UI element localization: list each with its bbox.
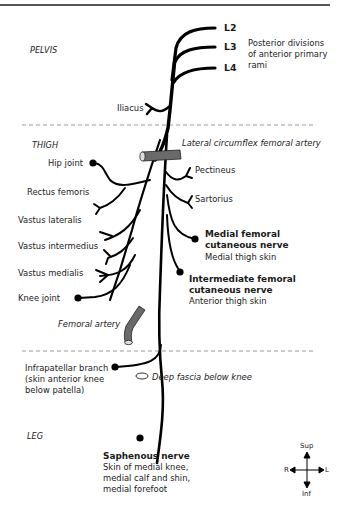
hip-joint-branch [95, 163, 150, 185]
roots-description-line2: of anterior primary [248, 49, 327, 59]
medial-cutaneous-description: Medial thigh skin [205, 252, 276, 262]
saphenous-description-line2: medial calf and shin, [103, 473, 190, 483]
compass-icon [290, 452, 324, 488]
intermediate-cutaneous-label-line2: cutaneous nerve [189, 285, 272, 295]
lateral-circumflex-artery-label: Lateral circumflex femoral artery [182, 138, 321, 148]
iliacus-branch [146, 104, 170, 114]
femoral-artery-label: Femoral artery [58, 319, 120, 329]
intermediate-cutaneous-description: Anterior thigh skin [189, 296, 267, 306]
root-l3 [175, 47, 215, 62]
roots-description-line3: rami [248, 60, 267, 70]
medial-cutaneous-label-line1: Medial femoral [205, 229, 280, 239]
root-l4 [174, 68, 215, 82]
medial-femoral-cutaneous-branch [167, 195, 195, 239]
infrapatellar-label-line1: Infrapatellar branch [25, 363, 108, 373]
compass-left-label: L [325, 465, 329, 475]
region-label-leg: LEG [27, 431, 43, 441]
intermediate-cutaneous-label-line1: Intermediate femoral [189, 274, 296, 284]
rectus-femoris-branch [94, 188, 125, 214]
pectineus-branch [166, 168, 192, 179]
lateral-circumflex-artery [140, 150, 181, 161]
medial-cutaneous-label-line2: cutaneous nerve [205, 240, 288, 250]
root-label-l3: L3 [224, 42, 237, 52]
lateral-division [110, 140, 160, 300]
sartorius-branch [166, 185, 192, 208]
sartorius-label: Sartorius [195, 194, 233, 204]
iliacus-label: Iliacus [117, 103, 144, 113]
compass-right-label: R [284, 465, 289, 475]
knee-joint-label: Knee joint [18, 293, 60, 303]
infrapatellar-label-line2: (skin anterior knee [25, 374, 104, 384]
vastus-intermedius-label: Vastus intermedius [18, 241, 98, 251]
nerve-diagram [0, 0, 350, 506]
vastus-lateralis-label: Vastus lateralis [18, 215, 82, 225]
infrapatellar-dot [111, 363, 118, 370]
hip-joint-label: Hip joint [48, 158, 83, 168]
root-label-l4: L4 [224, 63, 237, 73]
roots-description-line1: Posterior divisions [248, 38, 324, 48]
deep-fascia-label: Deep fascia below knee [152, 372, 252, 382]
region-label-pelvis: PELVIS [30, 45, 57, 55]
femoral-artery [124, 306, 145, 345]
medial-cutaneous-dot [191, 235, 198, 242]
saphenous-end-dot [136, 434, 143, 441]
knee-joint-dot [74, 294, 81, 301]
root-l2 [172, 28, 215, 80]
pectineus-label: Pectineus [195, 165, 235, 175]
saphenous-description-line3: medial forefoot [103, 484, 167, 494]
saphenous-description-line1: Skin of medial knee, [103, 462, 188, 472]
region-label-thigh: THIGH [32, 140, 58, 150]
infrapatellar-branch [116, 345, 161, 367]
deep-fascia-ring [136, 373, 148, 379]
vastus-medialis-label: Vastus medialis [18, 268, 83, 278]
infrapatellar-label-line3: below patella) [25, 385, 84, 395]
hip-joint-dot [89, 159, 96, 166]
compass-inf-label: Inf [302, 489, 311, 499]
rectus-femoris-label: Rectus femoris [27, 187, 89, 197]
compass-sup-label: Sup [300, 441, 313, 451]
saphenous-nerve-label: Saphenous nerve [103, 451, 190, 461]
intermediate-cutaneous-dot [176, 268, 183, 275]
root-label-l2: L2 [224, 23, 237, 33]
